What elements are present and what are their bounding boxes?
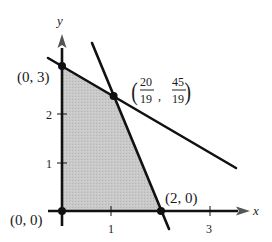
y-axis-arrow-icon <box>58 34 67 48</box>
tick-label-y2: 2 <box>46 108 52 122</box>
vertex-label-2-0: (2, 0) <box>165 190 198 207</box>
feasible-region-diagram: y x 1 3 1 2 (0, 3) (0, 0) (2, 0) ( 20 19… <box>0 0 272 242</box>
svg-text:,: , <box>158 89 161 103</box>
vertex-label-0-0: (0, 0) <box>10 212 43 229</box>
x-axis-label: x <box>252 203 259 218</box>
vertex-label-0-3: (0, 3) <box>17 69 50 86</box>
x-axis-arrow-icon <box>236 207 250 216</box>
vertex-intersection <box>110 92 118 100</box>
frac-x-den: 19 <box>140 92 152 106</box>
vertex-0-3 <box>58 62 66 70</box>
svg-text:): ) <box>185 77 191 105</box>
vertex-2-0 <box>157 207 165 215</box>
tick-label-x3: 3 <box>206 222 212 236</box>
y-axis-label: y <box>55 13 63 28</box>
svg-text:(: ( <box>131 77 137 105</box>
vertex-0-0 <box>58 207 66 215</box>
vertex-label-intersection: ( 20 19 , 45 19 ) <box>131 75 191 106</box>
tick-label-x1: 1 <box>108 222 114 236</box>
frac-x-num: 20 <box>140 75 152 89</box>
frac-y-den: 19 <box>172 92 184 106</box>
tick-label-y1: 1 <box>46 157 52 171</box>
frac-y-num: 45 <box>172 75 184 89</box>
